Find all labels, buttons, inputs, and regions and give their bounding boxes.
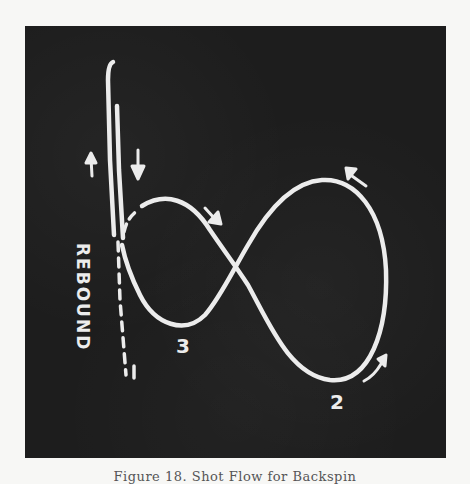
outgoing-path-line	[117, 106, 123, 238]
figure-caption: Figure 18. Shot Flow for Backspin	[0, 469, 470, 484]
up-arrow-icon	[86, 153, 96, 176]
up-left-arrow-icon	[346, 168, 366, 186]
shot-flow-diagram: REBOUND 3 2	[25, 26, 446, 458]
down-arrow-icon	[132, 150, 144, 179]
figure-panel: REBOUND 3 2	[25, 26, 446, 458]
point-2-label: 2	[330, 390, 344, 414]
arc-dashed-start	[124, 211, 137, 232]
figure-eight-path	[122, 180, 386, 380]
rebound-label: REBOUND	[73, 243, 93, 351]
point-3-label: 3	[176, 334, 190, 358]
incoming-path-line	[108, 62, 114, 235]
down-right-arrow-icon	[205, 208, 221, 224]
